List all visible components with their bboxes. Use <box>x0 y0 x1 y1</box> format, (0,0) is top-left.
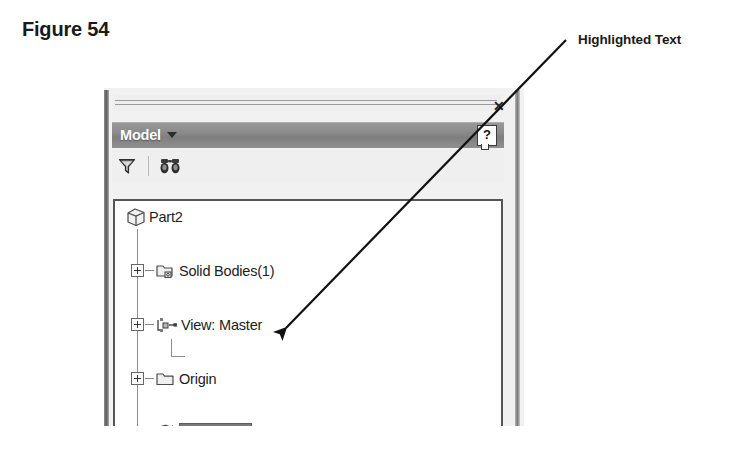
find-button[interactable] <box>155 152 185 180</box>
grip-line <box>115 104 497 105</box>
filter-button[interactable] <box>112 152 142 180</box>
solid-bodies-folder-icon <box>155 261 177 281</box>
tree-item-extrusion1[interactable]: Extrusion1 <box>115 419 501 426</box>
tree-connector-spine <box>171 339 172 356</box>
expand-plus-icon[interactable] <box>131 372 144 385</box>
tree-item-view-master[interactable]: View: Master <box>115 311 501 338</box>
tree-item-solid-bodies[interactable]: Solid Bodies(1) <box>115 257 501 284</box>
filter-icon <box>117 156 137 176</box>
panel-drag-grip[interactable] <box>113 95 501 111</box>
callout-label: Highlighted Text <box>578 32 681 47</box>
figure-caption: Figure 54 <box>22 18 109 41</box>
help-button[interactable]: ? <box>477 125 497 146</box>
expand-plus-icon[interactable] <box>131 318 144 331</box>
panel-toolbar <box>112 150 504 182</box>
close-icon[interactable]: ✕ <box>492 99 506 113</box>
tree-connector-elbow <box>171 356 185 357</box>
panel-title: Model <box>120 127 161 143</box>
find-icon <box>159 157 181 175</box>
tree-connector-elbow <box>145 324 154 325</box>
grip-line <box>115 100 497 101</box>
tree-item-origin[interactable]: Origin <box>115 365 501 392</box>
tree-item-label: Origin <box>179 371 216 387</box>
tree-item-label: View: Master <box>181 317 262 333</box>
tree-connector-elbow <box>145 378 154 379</box>
origin-folder-icon <box>155 369 177 389</box>
panel-titlebar[interactable]: Model ? <box>112 122 504 148</box>
tree-item-label: Part2 <box>149 209 183 225</box>
expand-plus-icon[interactable] <box>131 264 144 277</box>
tree-item-label-selected: Extrusion1 <box>179 423 252 426</box>
model-tree[interactable]: Part2 Solid Bodies(1) <box>113 199 503 426</box>
panel-left-border <box>104 90 109 426</box>
tree-item-label: Solid Bodies(1) <box>179 263 274 279</box>
extrusion-icon <box>155 423 177 427</box>
toolbar-separator <box>148 156 149 176</box>
tree-connector-elbow <box>145 270 154 271</box>
chevron-down-icon[interactable] <box>167 132 177 138</box>
part-cube-icon <box>125 207 147 227</box>
panel-right-border <box>515 90 520 426</box>
view-master-icon <box>155 315 177 335</box>
tree-item-part2[interactable]: Part2 <box>115 203 501 230</box>
